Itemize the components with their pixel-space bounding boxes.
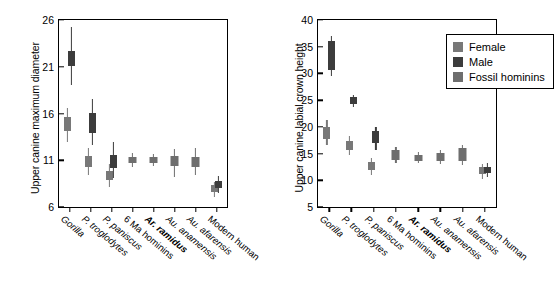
box-plot-mark (462, 20, 463, 207)
plot-area-left: 611162126GorillaP. troglodytesP. paniscu… (58, 19, 228, 208)
x-tick-mark (395, 207, 396, 212)
y-tick-label: 15 (301, 148, 318, 160)
y-tick-mark (318, 206, 323, 207)
legend-item: Fossil hominins (453, 69, 545, 84)
y-tick-mark (318, 180, 323, 181)
x-tick-mark (328, 207, 329, 212)
box-body (328, 41, 335, 70)
box-plot-mark (113, 20, 114, 207)
box-plot-mark (195, 20, 196, 207)
y-tick-mark (318, 46, 323, 47)
box-plot-mark (331, 20, 332, 207)
box-body (368, 162, 375, 169)
box-plot-mark (153, 20, 154, 207)
legend-item: Male (453, 54, 545, 69)
box-body (129, 157, 137, 164)
y-tick-label: 35 (301, 41, 318, 53)
y-tick-mark (318, 99, 323, 100)
plot-area-right: FemaleMaleFossil hominins 51015202530354… (317, 19, 497, 208)
y-tick-mark (59, 113, 64, 114)
legend-label: Male (469, 56, 493, 68)
box-body (392, 150, 400, 160)
x-tick-mark (174, 207, 175, 212)
box-body (459, 148, 467, 160)
box-body (106, 171, 113, 179)
box-plot-mark (375, 20, 376, 207)
x-tick-mark (417, 207, 418, 212)
box-body (346, 141, 353, 150)
box-body (323, 127, 330, 139)
box-plot-mark (214, 20, 215, 207)
box-plot-mark (371, 20, 372, 207)
box-body (372, 131, 379, 143)
box-body (414, 155, 422, 161)
legend-label: Fossil hominins (469, 71, 545, 83)
y-tick-label: 16 (42, 108, 59, 120)
y-axis-title-left: Upper canine maximum diameter (29, 23, 41, 213)
box-plot-mark (482, 20, 483, 207)
y-tick-label: 25 (301, 94, 318, 106)
box-plot-mark (174, 20, 175, 207)
box-plot-mark (71, 20, 72, 207)
x-tick-mark (111, 207, 112, 212)
box-body (171, 156, 179, 166)
x-tick-mark (216, 207, 217, 212)
y-tick-label: 30 (301, 67, 318, 79)
y-tick-label: 5 (307, 201, 318, 213)
y-tick-label: 6 (48, 201, 59, 213)
box-body (192, 157, 200, 166)
y-tick-label: 21 (42, 61, 59, 73)
x-tick-mark (69, 207, 70, 212)
box-body (89, 113, 96, 134)
x-tick-mark (351, 207, 352, 212)
y-tick-mark (318, 153, 323, 154)
y-tick-label: 40 (301, 14, 318, 26)
x-tick-mark (195, 207, 196, 212)
box-body (350, 97, 357, 104)
box-plot-mark (440, 20, 441, 207)
y-tick-mark (59, 19, 64, 20)
y-tick-label: 11 (43, 154, 59, 166)
box-body (110, 155, 117, 168)
box-body (484, 167, 491, 173)
box-plot-mark (487, 20, 488, 207)
y-tick-label: 20 (301, 121, 318, 133)
x-tick-mark (153, 207, 154, 212)
box-plot-mark (418, 20, 419, 207)
x-tick-mark (462, 207, 463, 212)
y-tick-label: 26 (42, 14, 59, 26)
box-body (68, 51, 75, 66)
x-tick-mark (373, 207, 374, 212)
legend-item: Female (453, 39, 545, 54)
box-plot-mark (218, 20, 219, 207)
box-plot-mark (109, 20, 110, 207)
box-plot-mark (132, 20, 133, 207)
y-tick-mark (318, 73, 323, 74)
box-plot-mark (67, 20, 68, 207)
panel-upper-canine-maximum-diameter: Upper canine maximum diameter 611162126G… (0, 0, 261, 292)
box-plot-mark (349, 20, 350, 207)
y-tick-mark (318, 126, 323, 127)
box-body (215, 181, 222, 188)
y-tick-mark (59, 160, 64, 161)
x-tick-mark (90, 207, 91, 212)
panel-upper-canine-labial-crown-height: Upper canine labial crown height FemaleM… (262, 0, 523, 292)
box-body (436, 153, 444, 160)
y-tick-mark (59, 66, 64, 67)
box-plot-mark (92, 20, 93, 207)
x-tick-mark (484, 207, 485, 212)
y-tick-mark (59, 206, 64, 207)
box-body (85, 156, 92, 167)
box-body (64, 117, 71, 131)
y-tick-label: 10 (301, 174, 318, 186)
x-tick-mark (440, 207, 441, 212)
box-plot-mark (395, 20, 396, 207)
x-tick-mark (132, 207, 133, 212)
box-plot-mark (353, 20, 354, 207)
box-body (150, 157, 158, 164)
y-tick-mark (318, 19, 323, 20)
